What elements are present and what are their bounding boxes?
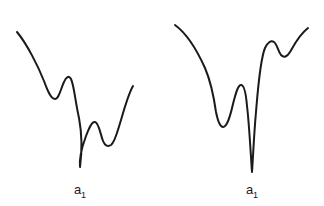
figure-background (0, 0, 324, 206)
left-curve-label-subscript: 1 (81, 190, 86, 200)
potential-energy-curves-figure: a1 a1 (0, 0, 324, 206)
right-curve-label-subscript: 1 (253, 190, 258, 200)
